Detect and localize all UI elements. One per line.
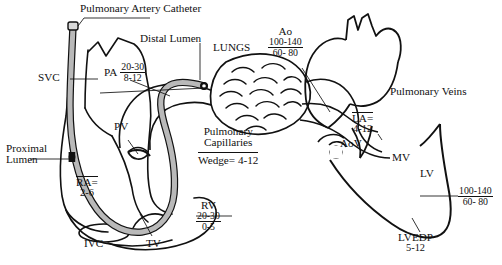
label-distal-lumen: Distal Lumen [140, 33, 201, 44]
la-value: 4-12 [352, 124, 373, 135]
label-aov: AoV [340, 138, 362, 149]
ra-value: 2-6 [76, 188, 98, 199]
label-proximal-lumen-group: Proximal Lumen [6, 143, 47, 166]
label-pa-group: PA 20-30 8-12 [104, 62, 145, 83]
label-pv: PV [114, 121, 128, 132]
diagram-title: Pulmonary Artery Catheter [80, 3, 201, 14]
ao-diastolic: 60- 80 [268, 48, 303, 58]
label-ivc: IVC [84, 238, 103, 249]
label-pulmonary-capillaries-group: Pulmonary Capillaries Wedge= 4-12 [198, 126, 258, 166]
pa-diastolic: 8-12 [120, 73, 145, 83]
label-svc: SVC [38, 72, 60, 83]
pulmonary-capillaries-line2: Capillaries [198, 137, 258, 148]
pulmonary-artery-catheter-diagram: Pulmonary Artery Catheter Distal Lumen L… [0, 0, 502, 265]
rv-pressure-fraction: 20-30 0-5 [196, 211, 221, 232]
catheter-tube [68, 22, 208, 232]
pa-pressure-fraction: 20-30 8-12 [120, 62, 145, 83]
label-pa: PA [104, 67, 117, 78]
label-tv: TV [146, 238, 161, 249]
lvedp-value: 5-12 [398, 243, 433, 254]
label-lungs: LUNGS [213, 42, 250, 53]
wedge-row: Wedge= 4-12 [198, 152, 258, 166]
label-ao-group: Ao 100-140 60- 80 [268, 26, 303, 58]
rv-diastolic: 0-5 [196, 222, 221, 232]
proximal-lumen-line2: Lumen [6, 154, 47, 165]
lv-pressure-fraction: 100-140 60- 80 [458, 186, 493, 207]
aorta-outline [305, 14, 400, 128]
label-mv: MV [392, 152, 410, 163]
wedge-label: Wedge= [198, 154, 235, 166]
label-rv-group: RV 20-30 0-5 [196, 200, 221, 232]
lv-diastolic: 60- 80 [458, 197, 493, 207]
label-pulmonary-veins: Pulmonary Veins [390, 86, 467, 97]
lungs-shape [211, 54, 311, 134]
label-ra-group: RA= 2-6 [76, 176, 98, 199]
label-la-group: LA= 4-12 [352, 112, 373, 135]
label-lvedp-group: LVEDP 5-12 [398, 232, 433, 254]
wedge-value: 4-12 [238, 154, 259, 166]
ao-pressure-fraction: 100-140 60- 80 [268, 37, 303, 58]
label-lv: LV [420, 168, 434, 179]
